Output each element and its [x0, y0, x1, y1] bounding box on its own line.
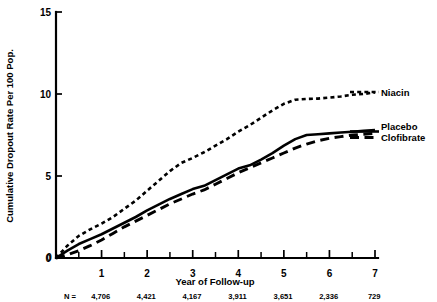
sample-size-value: 4,706 — [91, 292, 110, 301]
legend-label-niacin: Niacin — [381, 87, 410, 98]
sample-size-value: 3,911 — [228, 292, 247, 301]
x-tick-label: 5 — [281, 268, 287, 279]
series-line-clofibrate — [56, 133, 375, 258]
x-axis-title: Year of Follow-up — [175, 276, 254, 287]
sample-size-value: 4,421 — [137, 292, 157, 301]
x-tick-label: 2 — [144, 268, 150, 279]
y-tick-label: 15 — [40, 7, 52, 18]
x-tick-label: 1 — [99, 268, 105, 279]
x-tick-label: 6 — [327, 268, 333, 279]
y-tick-label: 10 — [40, 89, 52, 100]
sample-size-prefix: N = — [64, 292, 77, 301]
sample-size-value: 4,167 — [182, 292, 201, 301]
chart-canvas: 051015 01234567 Cumulative Dropout Rate … — [0, 0, 437, 302]
sample-size-value: 3,651 — [274, 292, 294, 301]
sample-size-value: 729 — [368, 292, 381, 301]
chart-figure: 051015 01234567 Cumulative Dropout Rate … — [0, 0, 437, 302]
legend-label-clofibrate: Clofibrate — [381, 132, 425, 143]
y-tick-label: 5 — [45, 171, 51, 182]
x-tick-label: 0 — [46, 252, 52, 263]
sample-size-value: 2,336 — [319, 292, 338, 301]
data-series-group — [56, 92, 375, 258]
legend-label-placebo: Placebo — [381, 121, 418, 132]
x-axis-tick-labels: 01234567 — [46, 252, 378, 279]
y-axis-title: Cumulative Dropout Rate Per 100 Pop. — [4, 49, 15, 223]
sample-size-row: N =4,7064,4214,1673,9113,6512,336729 — [64, 292, 381, 301]
x-tick-label: 7 — [372, 268, 378, 279]
y-axis-tick-labels: 051015 — [40, 7, 52, 264]
x-axis-ticks — [56, 250, 375, 258]
